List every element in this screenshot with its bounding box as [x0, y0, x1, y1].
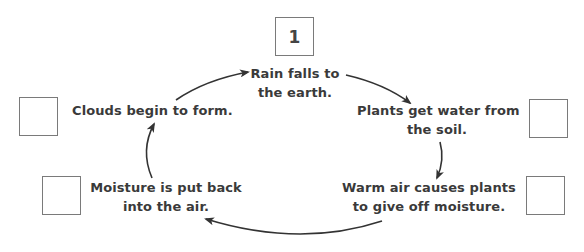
step-number-box-rain[interactable]: 1	[275, 17, 314, 56]
step-number-box-plants-water[interactable]	[529, 99, 568, 138]
step-number-box-clouds[interactable]	[19, 97, 58, 136]
step-label-line: Clouds begin to form.	[72, 101, 228, 120]
arrow-rain-to-plants	[346, 75, 410, 103]
step-label-line: the soil.	[357, 120, 517, 139]
step-label-line: Plants get water from	[357, 101, 517, 120]
step-label-line: to give off moisture.	[342, 197, 516, 216]
arrow-warm-to-moisture	[206, 219, 382, 234]
step-label-rain: Rain falls to the earth.	[235, 64, 355, 102]
step-label-clouds: Clouds begin to form.	[72, 101, 228, 120]
step-label-line: the earth.	[235, 83, 355, 102]
step-label-line: into the air.	[90, 197, 242, 216]
arrow-moisture-to-clouds	[146, 124, 154, 178]
step-label-line: Moisture is put back	[90, 178, 242, 197]
step-label-warm-air: Warm air causes plants to give off moist…	[342, 178, 516, 216]
step-label-line: Warm air causes plants	[342, 178, 516, 197]
step-label-line: Rain falls to	[235, 64, 355, 83]
step-number-box-moisture[interactable]	[42, 176, 81, 215]
step-label-moisture: Moisture is put back into the air.	[90, 178, 242, 216]
step-number-box-warm-air[interactable]	[526, 176, 565, 215]
step-label-plants-water: Plants get water from the soil.	[357, 101, 517, 139]
arrow-plants-to-warm	[437, 142, 442, 178]
